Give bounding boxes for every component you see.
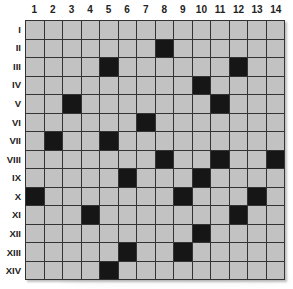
grid-cell xyxy=(230,188,248,206)
grid-cell xyxy=(267,58,285,76)
grid-cell xyxy=(137,132,155,150)
grid-cell xyxy=(26,114,44,132)
grid-cell xyxy=(82,58,100,76)
grid-cell xyxy=(63,77,81,95)
row-labels: IIIIIIIVVVIVIIVIIIIXXXIXIIXIIIXIV xyxy=(0,20,23,280)
grid-cell xyxy=(82,77,100,95)
grid-cell xyxy=(156,262,174,280)
grid-cell xyxy=(230,77,248,95)
grid-cell xyxy=(248,206,266,224)
grid-cell xyxy=(230,21,248,39)
grid-cell xyxy=(156,188,174,206)
grid-cell-filled xyxy=(119,169,137,187)
grid-cell-filled xyxy=(100,132,118,150)
grid-cell xyxy=(211,77,229,95)
grid-cell xyxy=(63,151,81,169)
grid-cell xyxy=(100,206,118,224)
grid-cell xyxy=(174,95,192,113)
grid-cell xyxy=(100,114,118,132)
grid-cell-filled xyxy=(230,206,248,224)
grid-cell xyxy=(82,40,100,58)
grid-cell xyxy=(26,225,44,243)
grid-cell xyxy=(82,243,100,261)
grid-cell xyxy=(211,243,229,261)
grid-cell xyxy=(119,58,137,76)
grid-cell-filled xyxy=(211,151,229,169)
grid-cell xyxy=(45,58,63,76)
column-label: 10 xyxy=(192,3,211,17)
grid-cell xyxy=(156,77,174,95)
grid-cell xyxy=(119,206,137,224)
column-label: 1 xyxy=(25,3,44,17)
grid-cell xyxy=(100,77,118,95)
grid-cell xyxy=(248,262,266,280)
grid-cell xyxy=(211,169,229,187)
grid-cell-filled xyxy=(137,114,155,132)
grid-cell xyxy=(137,77,155,95)
grid-cell-filled xyxy=(248,188,266,206)
grid-cell xyxy=(248,243,266,261)
grid-cell xyxy=(45,225,63,243)
grid-cell xyxy=(137,225,155,243)
grid-cell xyxy=(267,95,285,113)
grid-cell xyxy=(248,151,266,169)
grid-cell xyxy=(174,151,192,169)
grid-cell xyxy=(248,21,266,39)
grid-cell xyxy=(45,95,63,113)
grid-cell xyxy=(100,95,118,113)
grid-cell xyxy=(45,188,63,206)
grid-cell xyxy=(26,206,44,224)
column-label: 4 xyxy=(81,3,100,17)
grid-cell xyxy=(45,21,63,39)
grid-cell xyxy=(156,114,174,132)
grid-cell xyxy=(82,262,100,280)
grid-cell xyxy=(230,151,248,169)
grid-cell xyxy=(100,169,118,187)
grid-cell xyxy=(119,77,137,95)
grid-cell xyxy=(174,206,192,224)
grid-cell xyxy=(26,95,44,113)
grid-cell xyxy=(193,21,211,39)
grid-cell xyxy=(174,21,192,39)
grid-cell xyxy=(63,225,81,243)
row-label: V xyxy=(0,94,23,113)
grid-cell xyxy=(193,40,211,58)
row-label: XIV xyxy=(0,261,23,280)
grid-cell-filled xyxy=(82,206,100,224)
grid-cell xyxy=(174,58,192,76)
grid-cell xyxy=(267,206,285,224)
grid-cell xyxy=(82,95,100,113)
grid-cell-filled xyxy=(174,188,192,206)
grid-cell xyxy=(267,243,285,261)
grid-cell xyxy=(45,114,63,132)
grid-cell xyxy=(267,188,285,206)
grid-cell xyxy=(248,95,266,113)
row-label: IX xyxy=(0,169,23,188)
grid-cell xyxy=(193,58,211,76)
grid-cell xyxy=(230,95,248,113)
grid-cell xyxy=(119,132,137,150)
grid-cell xyxy=(45,77,63,95)
grid-cell xyxy=(230,262,248,280)
grid-cell xyxy=(63,132,81,150)
grid-cell xyxy=(174,114,192,132)
grid-cell xyxy=(63,21,81,39)
grid-cell xyxy=(63,188,81,206)
grid-cell xyxy=(82,132,100,150)
cell-grid xyxy=(25,20,285,280)
grid-cell xyxy=(119,21,137,39)
row-label: IV xyxy=(0,76,23,95)
grid-cell xyxy=(119,40,137,58)
column-label: 3 xyxy=(62,3,81,17)
grid-cell xyxy=(248,225,266,243)
grid-cell xyxy=(100,21,118,39)
grid-cell xyxy=(45,151,63,169)
grid-cell-filled xyxy=(193,77,211,95)
grid-cell xyxy=(267,132,285,150)
grid-cell xyxy=(267,40,285,58)
grid-cell xyxy=(248,114,266,132)
column-label: 12 xyxy=(229,3,248,17)
column-label: 6 xyxy=(118,3,137,17)
grid-cell xyxy=(211,21,229,39)
grid-cell xyxy=(137,206,155,224)
